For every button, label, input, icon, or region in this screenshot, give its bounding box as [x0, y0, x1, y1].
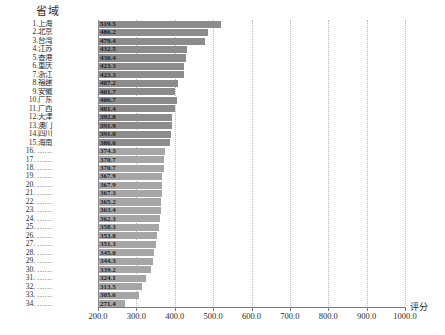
bar-row: 16. ……374.3 [98, 147, 405, 155]
x-axis-tick-label: 900.0 [357, 311, 376, 321]
category-label: 8.福建 [0, 79, 56, 87]
bar-row: 26. ……353.8 [98, 232, 405, 240]
bar-value-label: 345.0 [100, 249, 116, 257]
bar-row: 19. ……367.9 [98, 172, 405, 180]
bar-row: 14.四川391.0 [98, 130, 405, 138]
category-label: 9.安徽 [0, 88, 56, 96]
x-axis-tick-label: 800.0 [319, 311, 338, 321]
category-label: 33. …… [0, 291, 56, 299]
bar-value-label: 392.8 [100, 113, 116, 121]
x-axis-tick-label: 700.0 [280, 311, 299, 321]
bar-value-label: 386.6 [100, 139, 116, 147]
bar-row: 13.澳门391.9 [98, 122, 405, 130]
category-label: 28. …… [0, 249, 56, 257]
bar-value-label: 363.4 [100, 206, 116, 214]
plot-area: 1.上海519.52.北京486.23.台湾479.44.江苏432.55.香港… [98, 20, 405, 308]
x-axis-tick-label: 200.0 [88, 311, 107, 321]
x-axis-tick-label: 300.0 [127, 311, 146, 321]
bar-row: 2.北京486.2 [98, 28, 405, 36]
bar-row: 22. ……365.2 [98, 198, 405, 206]
category-label: 30. …… [0, 266, 56, 274]
bar-row: 10.广东406.7 [98, 96, 405, 104]
bar-row: 21. ……367.3 [98, 189, 405, 197]
bar-value-label: 367.9 [100, 172, 116, 180]
bar-value-label: 370.7 [100, 164, 116, 172]
bar-value-label: 351.3 [100, 240, 116, 248]
bar-value-label: 367.9 [100, 181, 116, 189]
bar-value-label: 365.2 [100, 198, 116, 206]
category-label: 18. …… [0, 164, 56, 172]
category-label: 4.江苏 [0, 45, 56, 53]
bar-value-label: 391.9 [100, 122, 116, 130]
category-label: 20. …… [0, 181, 56, 189]
bar-row: 15.海南386.6 [98, 139, 405, 147]
bar-value-label: 391.0 [100, 130, 116, 138]
bar-value-label: 370.7 [100, 156, 116, 164]
category-label: 32. …… [0, 283, 56, 291]
bar-value-label: 423.3 [100, 71, 116, 79]
bar-row: 5.香港430.4 [98, 54, 405, 62]
bar-row: 6.重庆423.3 [98, 62, 405, 70]
category-label: 31. …… [0, 274, 56, 282]
bar-row: 27. ……351.3 [98, 240, 405, 248]
bar-value-label: 479.4 [100, 37, 116, 45]
bar-chart: 省域 1.上海519.52.北京486.23.台湾479.44.江苏432.55… [0, 0, 445, 335]
bar-value-label: 401.7 [100, 88, 116, 96]
category-label: 22. …… [0, 198, 56, 206]
bar-value-label: 344.3 [100, 257, 116, 265]
bar-row: 23. ……363.4 [98, 206, 405, 214]
bar-row: 28. ……345.0 [98, 249, 405, 257]
bar-value-label: 358.3 [100, 223, 116, 231]
bar-value-label: 339.2 [100, 266, 116, 274]
bar-value-label: 367.3 [100, 189, 116, 197]
bar-row: 25. ……358.3 [98, 223, 405, 231]
bar-row: 20. ……367.9 [98, 181, 405, 189]
category-label: 16. …… [0, 147, 56, 155]
bar-value-label: 324.1 [100, 274, 116, 282]
bar-value-label: 353.8 [100, 232, 116, 240]
category-label: 14.四川 [0, 130, 56, 138]
category-label: 34. …… [0, 300, 56, 308]
category-label: 17. …… [0, 156, 56, 164]
x-axis-tick-label: 400.0 [165, 311, 184, 321]
x-axis-tick-label: 600.0 [242, 311, 261, 321]
category-label: 2.北京 [0, 28, 56, 36]
bar-row: 18. ……370.7 [98, 164, 405, 172]
category-label: 24. …… [0, 215, 56, 223]
gridline [405, 20, 406, 308]
category-label: 10.广东 [0, 96, 56, 104]
bar-row: 30. ……339.2 [98, 266, 405, 274]
bar-value-label: 486.2 [100, 28, 116, 36]
bar-row: 24. ……362.3 [98, 215, 405, 223]
bar-row: 9.安徽401.7 [98, 88, 405, 96]
bar-row: 11.广西401.4 [98, 105, 405, 113]
bar-value-label: 407.2 [100, 79, 116, 87]
bar-value-label: 519.5 [100, 20, 116, 28]
category-label: 13.澳门 [0, 122, 56, 130]
bar-value-label: 305.6 [100, 291, 116, 299]
category-label: 23. …… [0, 206, 56, 214]
category-label: 1.上海 [0, 20, 56, 28]
bar-row: 12.天津392.8 [98, 113, 405, 121]
bar-row: 1.上海519.5 [98, 20, 405, 28]
category-label: 19. …… [0, 172, 56, 180]
chart-title: 省域 [36, 2, 60, 18]
bar-value-label: 374.3 [100, 147, 116, 155]
bar-row: 31. ……324.1 [98, 274, 405, 282]
category-label: 11.广西 [0, 105, 56, 113]
x-axis-tick-label: 500.0 [204, 311, 223, 321]
category-label: 29. …… [0, 257, 56, 265]
category-label: 7.浙江 [0, 71, 56, 79]
bar-value-label: 430.4 [100, 54, 116, 62]
bar-value-label: 313.5 [100, 283, 116, 291]
bar-value-label: 432.5 [100, 45, 116, 53]
bar-value-label: 362.3 [100, 215, 116, 223]
category-label: 3.台湾 [0, 37, 56, 45]
bar-row: 3.台湾479.4 [98, 37, 405, 45]
bar-value-label: 423.3 [100, 62, 116, 70]
category-label: 27. …… [0, 240, 56, 248]
category-label: 25. …… [0, 223, 56, 231]
bar-value-label: 401.4 [100, 105, 116, 113]
bar-row: 29. ……344.3 [98, 257, 405, 265]
category-label: 12.天津 [0, 113, 56, 121]
